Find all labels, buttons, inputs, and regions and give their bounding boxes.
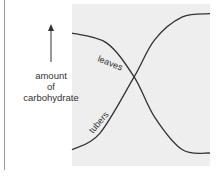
series-line-leaves: [72, 33, 210, 153]
arrow-up-icon: [48, 24, 54, 31]
chart-svg: leaves tubers: [0, 0, 222, 178]
y-arrow: [48, 24, 54, 62]
